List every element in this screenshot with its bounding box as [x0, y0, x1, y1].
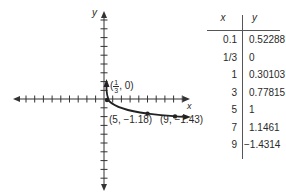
table-row: 5 1 — [205, 101, 286, 119]
cell-x: 1 — [205, 66, 237, 84]
cell-x: 9 — [205, 136, 237, 154]
x-axis-label: x — [187, 101, 192, 112]
cell-x: 3 — [205, 84, 237, 102]
cell-y: 0.30103 — [249, 66, 285, 84]
graph-canvas — [0, 0, 200, 192]
y-axis-down-arrow-icon — [101, 184, 107, 191]
table-row: 9 −1.4314 — [205, 136, 286, 154]
cell-y: 1.1461 — [249, 119, 280, 137]
header-x: x — [205, 11, 241, 25]
cell-y: 0.77815 — [249, 84, 285, 102]
table-row: 1/3 0 — [205, 49, 286, 67]
point-label-one-third: (13, 0) — [110, 79, 134, 94]
values-table: x y 0.1 0.52288 1/3 0 1 0.30103 3 0.7781… — [205, 11, 286, 154]
table-row: 3 0.77815 — [205, 84, 286, 102]
table-header: x y — [205, 11, 286, 25]
cell-y: 1 — [249, 101, 255, 119]
header-y: y — [252, 11, 257, 25]
cell-y: 0 — [249, 49, 255, 67]
table-row: 7 1.1461 — [205, 119, 286, 137]
cell-x: 0.1 — [205, 31, 237, 49]
cell-y: 0.52288 — [249, 31, 285, 49]
point-one-third — [105, 98, 109, 102]
cell-x: 5 — [205, 101, 237, 119]
coord-rest: , 0) — [119, 80, 133, 91]
cell-y: −1.4314 — [244, 136, 280, 154]
y-axis-up-arrow-icon — [101, 11, 107, 18]
graph: y x (13, 0) (5, −1.18) (9, −1.43) — [0, 0, 200, 192]
y-axis-label: y — [92, 7, 97, 18]
table-row: 1 0.30103 — [205, 66, 286, 84]
x-axis-left-arrow-icon — [13, 96, 20, 102]
table-row: 0.1 0.52288 — [205, 31, 286, 49]
cell-x: 7 — [205, 119, 237, 137]
point-label-nine: (9, −1.43) — [160, 114, 203, 125]
cell-x: 1/3 — [205, 49, 237, 67]
point-label-five: (5, −1.18) — [109, 114, 152, 125]
